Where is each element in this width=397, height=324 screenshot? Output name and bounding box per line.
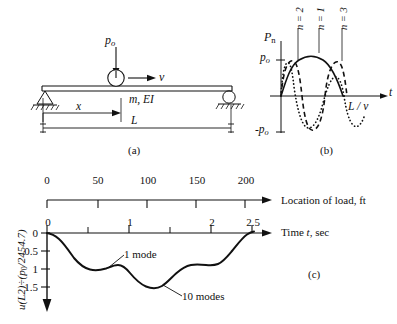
location-tick-150: 150 (185, 174, 209, 186)
mode-label-n3: n = 3 (339, 7, 350, 30)
velocity-label: v (159, 71, 164, 83)
panel-c-y-ticks (41, 233, 50, 287)
mode-label-n2: n = 2 (295, 7, 306, 30)
curve-tag-1-mode: 1 mode (124, 248, 157, 260)
panel-b-ytick-positive: po (260, 52, 270, 65)
beam-member (42, 86, 232, 91)
curve-n3-dotted (281, 63, 344, 128)
time-axis-title: Time t, sec (281, 226, 329, 238)
figure-root: po v m, EI x L (a) (0, 0, 397, 324)
pin-support-icon (31, 91, 59, 110)
velocity-arrow-icon (128, 75, 156, 81)
panel-c-deflection-chart (0, 214, 397, 324)
caption-a: (a) (128, 144, 140, 156)
location-tick-100: 100 (136, 174, 160, 186)
caption-c: (c) (308, 268, 320, 280)
leader-10-modes (163, 285, 182, 296)
location-tick-0: 0 (37, 174, 57, 186)
dimension-x (43, 98, 121, 122)
mode-label-n1: n = 1 (316, 7, 327, 30)
deflection-axis-title: u(L2)÷(p0/2454.7) (16, 229, 29, 310)
beam-properties-label: m, EI (129, 94, 154, 106)
load-magnitude-label: po (105, 34, 115, 48)
panel-b-x-end-label: L / v (348, 101, 368, 113)
caption-b: (b) (320, 144, 333, 156)
time-tick-2p5: 2.5 (240, 216, 266, 228)
location-tick-50: 50 (88, 174, 108, 186)
mode-leader-lines (298, 28, 342, 61)
panel-b-ytick-negative: -po (255, 124, 269, 137)
location-tick-200: 200 (234, 174, 258, 186)
span-L-label: L (131, 115, 137, 127)
time-tick-2: 2 (202, 216, 222, 228)
moving-load-icon (108, 47, 124, 86)
panel-b-x-axis-label: t (389, 87, 392, 99)
panel-b-y-axis-label: Pn (264, 31, 276, 45)
time-tick-1: 1 (120, 216, 140, 228)
panel-b-axes (270, 41, 388, 133)
distance-x-label: x (76, 101, 81, 113)
curve-tag-10-modes: 10 modes (182, 290, 224, 302)
roller-support-icon (216, 91, 244, 109)
location-axis-title: Location of load, ft (281, 194, 366, 206)
time-tick-0: 0 (38, 216, 58, 228)
